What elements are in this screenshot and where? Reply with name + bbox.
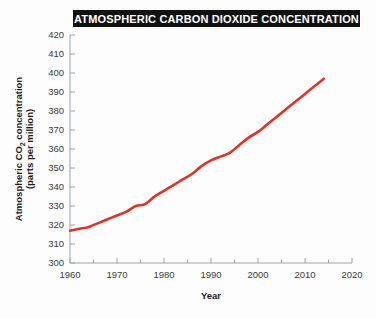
x-tick-label: 2000 <box>247 269 268 280</box>
x-axis-title: Year <box>201 290 221 301</box>
chart-plot: 300310320330340350360370380390400410420 … <box>0 0 376 318</box>
y-tick-label: 330 <box>48 200 64 211</box>
y-tick-label: 320 <box>48 219 64 230</box>
y-tick-label: 340 <box>48 181 64 192</box>
x-tick-label: 1980 <box>153 269 174 280</box>
y-tick-label: 420 <box>48 29 64 40</box>
y-tick-label: 310 <box>48 238 64 249</box>
y-tick-label: 370 <box>48 124 64 135</box>
x-tick-label: 1990 <box>200 269 221 280</box>
y-tick-label: 400 <box>48 67 64 78</box>
y-axis: 300310320330340350360370380390400410420 <box>48 29 75 268</box>
figure-container: ATMOSPHERIC CARBON DIOXIDE CONCENTRATION… <box>0 0 376 318</box>
y-tick-label: 360 <box>48 143 64 154</box>
y-axis-title: Atmospheric CO2 concentration (parts per… <box>13 77 35 222</box>
x-tick-label: 2020 <box>341 269 362 280</box>
y-tick-label: 300 <box>48 257 64 268</box>
y-tick-label: 350 <box>48 162 64 173</box>
x-tick-label: 1960 <box>59 269 80 280</box>
co2-data-line <box>70 79 324 231</box>
y-tick-label: 410 <box>48 48 64 59</box>
x-axis: 1960197019801990200020102020 <box>59 258 362 280</box>
y-tick-label: 380 <box>48 105 64 116</box>
x-tick-label: 1970 <box>106 269 127 280</box>
y-axis-title-line2: (parts per million) <box>24 109 35 189</box>
y-tick-label: 390 <box>48 86 64 97</box>
x-tick-label: 2010 <box>294 269 315 280</box>
